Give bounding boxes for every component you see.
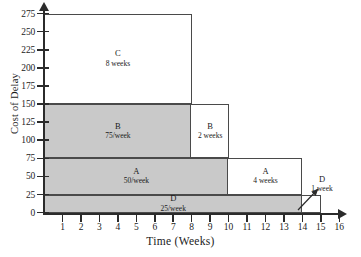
y-tick-0 <box>37 212 49 214</box>
y-tick-label-0: 0 <box>0 208 35 218</box>
x-tick-label-10: 10 <box>219 222 239 233</box>
region-a-open <box>227 158 302 194</box>
y-tick-25 <box>37 194 49 196</box>
y-tick-250 <box>37 31 49 33</box>
y-tick-50 <box>37 176 49 178</box>
x-tick-2 <box>80 215 82 222</box>
y-axis-arrow-icon <box>39 2 49 11</box>
x-tick-11 <box>246 215 248 222</box>
x-tick-13 <box>283 215 285 222</box>
y-axis-line <box>43 10 45 214</box>
region-b-shaded <box>43 104 192 158</box>
x-tick-12 <box>265 215 267 222</box>
region-d-shaded <box>43 195 303 213</box>
x-tick-15 <box>320 215 322 222</box>
y-tick-200 <box>37 67 49 69</box>
x-tick-8 <box>191 215 193 222</box>
x-tick-7 <box>172 215 174 222</box>
x-tick-4 <box>117 215 119 222</box>
y-tick-100 <box>37 139 49 141</box>
x-tick-16 <box>339 215 341 222</box>
cost-of-delay-chart: 0255075100125150175200225250275 12345678… <box>0 0 361 257</box>
region-b-open <box>190 104 228 158</box>
x-tick-label-5: 5 <box>126 222 146 233</box>
x-tick-label-4: 4 <box>108 222 128 233</box>
x-tick-label-9: 9 <box>200 222 220 233</box>
x-tick-label-15: 15 <box>311 222 331 233</box>
y-tick-label-250: 250 <box>0 27 35 37</box>
y-tick-150 <box>37 103 49 105</box>
region-c-open <box>43 14 192 104</box>
x-tick-9 <box>209 215 211 222</box>
x-tick-6 <box>154 215 156 222</box>
x-tick-label-6: 6 <box>145 222 165 233</box>
y-tick-175 <box>37 85 49 87</box>
y-tick-label-275: 275 <box>0 9 35 19</box>
x-tick-10 <box>228 215 230 222</box>
x-tick-label-12: 12 <box>256 222 276 233</box>
y-tick-125 <box>37 121 49 123</box>
x-tick-14 <box>302 215 304 222</box>
x-tick-label-14: 14 <box>292 222 312 233</box>
x-tick-1 <box>62 215 64 222</box>
x-tick-5 <box>136 215 138 222</box>
x-tick-label-7: 7 <box>163 222 183 233</box>
y-tick-label-50: 50 <box>0 171 35 181</box>
y-tick-225 <box>37 49 49 51</box>
d-callout-name: D <box>298 174 346 184</box>
x-tick-label-11: 11 <box>237 222 257 233</box>
y-tick-275 <box>37 13 49 15</box>
x-axis-title: Time (Weeks) <box>0 235 361 247</box>
y-tick-label-25: 25 <box>0 190 35 200</box>
x-tick-label-1: 1 <box>53 222 73 233</box>
callout-arrow-icon <box>296 186 326 212</box>
region-a-shaded <box>43 158 229 194</box>
x-tick-label-2: 2 <box>71 222 91 233</box>
x-tick-label-3: 3 <box>89 222 109 233</box>
x-tick-label-16: 16 <box>329 222 349 233</box>
y-tick-75 <box>37 158 49 160</box>
y-axis-title: Cost of Delay <box>9 49 20 159</box>
x-tick-label-13: 13 <box>274 222 294 233</box>
x-tick-3 <box>99 215 101 222</box>
x-tick-label-8: 8 <box>182 222 202 233</box>
